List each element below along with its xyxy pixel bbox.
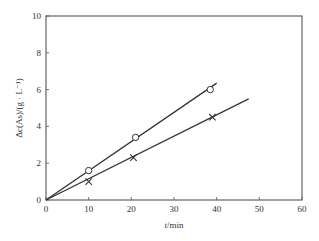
x-tick-label: 20 bbox=[127, 204, 137, 214]
circle-marker bbox=[85, 167, 91, 173]
x-tick-label: 60 bbox=[298, 204, 308, 214]
x-tick-label: 40 bbox=[212, 204, 222, 214]
fit-line-crosses bbox=[46, 99, 249, 200]
fit-lines bbox=[46, 83, 249, 200]
x-tick-label: 30 bbox=[170, 204, 180, 214]
x-tick-label: 10 bbox=[84, 204, 94, 214]
y-axis-label: Δc(As)/(g · L⁻¹) bbox=[14, 78, 24, 137]
x-tick-label: 50 bbox=[255, 204, 265, 214]
plot-frame bbox=[46, 16, 302, 200]
y-tick-label: 0 bbox=[37, 195, 42, 205]
x-axis-label: t/min bbox=[164, 220, 184, 230]
axis-ticks: 01020304050600246810 bbox=[32, 11, 307, 214]
x-marker bbox=[209, 114, 215, 120]
circle-marker bbox=[207, 86, 213, 92]
x-tick-label: 0 bbox=[44, 204, 49, 214]
chart: 01020304050600246810 t/min Δc(As)/(g · L… bbox=[0, 0, 319, 241]
y-tick-label: 8 bbox=[37, 48, 42, 58]
y-tick-label: 2 bbox=[37, 158, 42, 168]
y-tick-label: 10 bbox=[32, 11, 42, 21]
y-tick-label: 6 bbox=[37, 85, 42, 95]
circle-marker bbox=[132, 134, 138, 140]
fit-line-circles bbox=[46, 83, 217, 200]
y-tick-label: 4 bbox=[37, 121, 42, 131]
plot-border bbox=[46, 16, 302, 200]
